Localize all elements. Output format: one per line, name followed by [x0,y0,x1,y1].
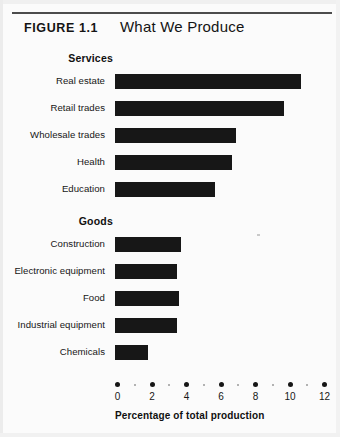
bar-row: Health [0,155,340,171]
bar-row: Real estate [0,74,340,90]
bar-row: Wholesale trades [0,128,340,144]
bar-chart: ServicesReal estateRetail tradesWholesal… [0,52,340,437]
bar [115,155,232,170]
bar-category-label: Industrial equipment [0,319,105,330]
group-heading-services: Services [10,52,113,64]
bar-row: Chemicals [0,345,340,361]
bar-category-label: Health [0,156,105,167]
axis-tick-label: 6 [208,391,234,402]
axis-tick-label: 2 [139,391,165,402]
bar [115,237,181,252]
bar-row: Education [0,182,340,198]
axis-minor-tick [168,384,170,386]
figure-title: What We Produce [120,18,244,35]
bar-category-label: Food [0,292,105,303]
axis-tick-label: 8 [243,391,269,402]
bar-row: Industrial equipment [0,318,340,334]
bar-category-label: Wholesale trades [0,129,105,140]
header-divider [12,12,332,14]
group-heading-goods: Goods [10,215,113,227]
scan-artifact [257,234,260,236]
axis-tick-label: 4 [174,391,200,402]
bar [115,291,179,306]
axis-tick-label: 0 [105,391,131,402]
figure-number: FIGURE 1.1 [24,21,98,35]
scan-edge-top [0,0,340,4]
axis-minor-tick [272,384,274,386]
bar-category-label: Education [0,183,105,194]
bar [115,182,215,197]
bar [115,74,301,89]
axis-tick-label: 10 [277,391,303,402]
bar-row: Food [0,291,340,307]
bar-category-label: Retail trades [0,102,105,113]
bar [115,318,177,333]
axis-minor-tick [134,384,136,386]
axis-tick [184,382,189,387]
axis-minor-tick [237,384,239,386]
axis-tick [288,382,293,387]
bar-category-label: Construction [0,238,105,249]
bar [115,128,236,143]
axis-tick [115,382,120,387]
bar [115,264,177,279]
bar [115,101,284,116]
axis-tick [150,382,155,387]
axis-minor-tick [203,384,205,386]
bar-row: Retail trades [0,101,340,117]
bar-category-label: Chemicals [0,346,105,357]
axis-tick [322,382,327,387]
bar [115,345,148,360]
axis-tick-label: 12 [312,391,338,402]
axis-tick [219,382,224,387]
bar-category-label: Electronic equipment [0,265,105,276]
axis-minor-tick [306,384,308,386]
figure-page: FIGURE 1.1 What We Produce ServicesReal … [0,0,340,437]
x-axis: 024681012Percentage of total production [0,382,340,437]
x-axis-title: Percentage of total production [115,410,265,421]
axis-tick [253,382,258,387]
bar-row: Electronic equipment [0,264,340,280]
bar-category-label: Real estate [0,75,105,86]
bar-row: Construction [0,237,340,253]
figure-header: FIGURE 1.1 What We Produce [12,19,332,43]
